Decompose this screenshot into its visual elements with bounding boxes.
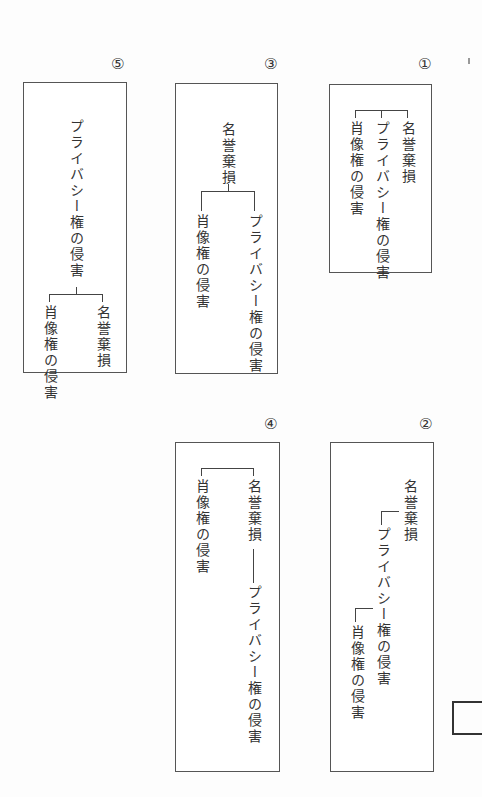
- bracket-leg-left: [201, 191, 202, 211]
- connector-vertical: [253, 549, 254, 583]
- bracket-horizontal: [201, 468, 253, 469]
- term-portrait: 肖像権の侵害: [194, 479, 210, 575]
- bracket-leg-right: [254, 191, 255, 211]
- step-vertical-1: [381, 511, 382, 525]
- term-privacy: プライバシー権の侵害: [247, 214, 263, 374]
- option-box-1: 名誉棄損 プライバシー権の侵害 肖像権の侵害: [329, 84, 432, 273]
- stray-mark: [468, 58, 470, 64]
- bracket-horizontal: [49, 294, 102, 295]
- term-portrait: 肖像権の侵害: [348, 121, 364, 217]
- step-horizontal-2: [355, 608, 373, 609]
- step-horizontal-1: [381, 511, 399, 512]
- term-portrait: 肖像権の侵害: [194, 214, 210, 310]
- option-box-2: 名誉棄損 プライバシー権の侵害 肖像権の侵害: [330, 442, 434, 772]
- option-number-3: ③: [264, 56, 277, 72]
- step-vertical-2: [355, 608, 356, 622]
- bracket-stem: [228, 184, 229, 191]
- term-privacy: プライバシー権の侵害: [68, 119, 84, 279]
- bracket-leg-right: [102, 294, 103, 302]
- bracket-leg-right: [253, 468, 254, 476]
- bracket-leg-left: [49, 294, 50, 302]
- option-number-4: ④: [264, 416, 277, 432]
- term-privacy: プライバシー権の侵害: [375, 527, 391, 687]
- bracket-stem: [76, 287, 77, 294]
- option-number-1: ①: [418, 56, 431, 72]
- term-portrait: 肖像権の侵害: [349, 625, 365, 721]
- option-number-5: ⑤: [111, 56, 124, 72]
- term-defamation: 名誉棄損: [246, 479, 262, 543]
- bracket-leg-mid: [381, 110, 382, 118]
- term-defamation: 名誉棄損: [220, 122, 236, 186]
- bracket-leg-left: [201, 468, 202, 476]
- bracket-leg-left: [355, 110, 356, 118]
- term-privacy: プライバシー権の侵害: [246, 585, 262, 745]
- term-defamation: 名誉棄損: [95, 305, 111, 369]
- option-box-5: プライバシー権の侵害 名誉棄損 肖像権の侵害: [23, 82, 127, 373]
- term-privacy: プライバシー権の侵害: [374, 121, 390, 281]
- option-box-4: 名誉棄損 肖像権の侵害 プライバシー権の侵害: [175, 442, 280, 772]
- bracket-horizontal: [201, 191, 254, 192]
- term-defamation: 名誉棄損: [402, 479, 418, 543]
- option-box-3: 名誉棄損 プライバシー権の侵害 肖像権の侵害: [175, 83, 278, 374]
- partial-answer-box: [452, 701, 482, 735]
- term-portrait: 肖像権の侵害: [42, 305, 58, 401]
- term-defamation: 名誉棄損: [400, 121, 416, 185]
- bracket-leg-right: [407, 110, 408, 118]
- option-number-2: ②: [419, 416, 432, 432]
